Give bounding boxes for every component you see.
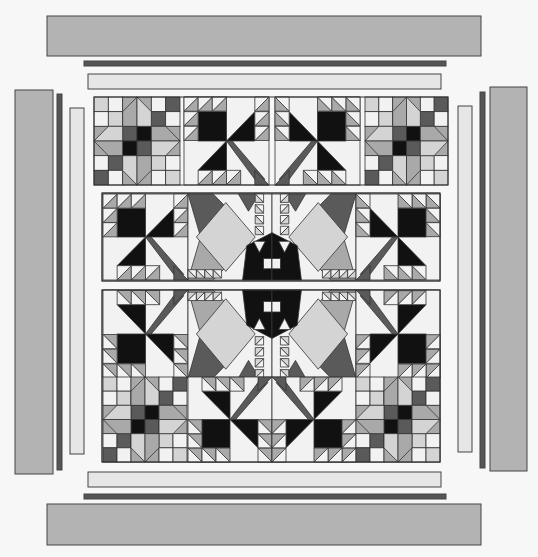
paw-square [398,208,426,237]
square-patch [370,377,384,391]
medallion-block [272,194,356,280]
square-patch [384,420,398,434]
top-dark-border [84,61,446,66]
bear-paw-block [184,97,269,185]
square-patch [434,97,448,112]
star-block [356,377,440,462]
square-patch [159,434,173,448]
square-patch [356,377,370,391]
square-patch [356,434,370,448]
square-patch [379,156,393,171]
square-patch [145,420,159,434]
right-outer-border [490,87,527,471]
square-patch [123,126,137,141]
square-patch [370,448,384,462]
medallion-block [188,290,272,378]
square-patch [420,170,434,185]
square-patch [137,141,151,156]
square-patch [173,434,187,448]
square-patch [108,97,122,112]
square-patch [393,126,407,141]
square-patch [420,156,434,171]
square-patch [426,391,440,405]
square-patch [151,112,165,127]
right-light-border [458,106,472,452]
square-patch [398,405,412,419]
medallion-block [188,194,272,280]
square-patch [108,156,122,171]
square-patch [412,448,426,462]
square-patch [379,170,393,185]
square-patch [166,112,180,127]
bear-paw-block [272,377,356,462]
star-block [94,97,180,185]
left-dark-border [57,94,62,470]
paw-square [398,334,426,363]
square-patch [420,112,434,127]
square-patch [173,448,187,462]
square-patch [173,377,187,391]
square-patch [131,405,145,419]
square-patch [379,112,393,127]
square-patch [94,156,108,171]
square-patch [384,405,398,419]
square-patch [407,141,421,156]
square-patch [426,434,440,448]
square-patch [145,405,159,419]
square-patch [365,170,379,185]
square-patch [272,301,280,312]
top-outer-border [47,16,481,56]
square-patch [272,259,280,269]
square-patch [398,420,412,434]
square-patch [370,434,384,448]
square-patch [103,434,117,448]
square-patch [103,377,117,391]
square-patch [103,448,117,462]
top-light-border [88,74,441,89]
square-patch [159,448,173,462]
square-patch [159,391,173,405]
bottom-dark-border [84,494,446,499]
square-patch [137,126,151,141]
square-patch [356,448,370,462]
square-patch [365,156,379,171]
square-patch [434,170,448,185]
square-patch [123,141,137,156]
square-patch [151,97,165,112]
square-patch [94,97,108,112]
bear-paw-block [356,290,440,378]
left-light-border [70,108,84,454]
square-patch [173,391,187,405]
star-block [103,377,187,462]
bear-paw-block [356,194,440,280]
paw-square [198,112,226,141]
medallion-block [272,290,356,378]
square-patch [94,112,108,127]
square-patch [434,156,448,171]
square-patch [370,391,384,405]
bear-paw-block [103,194,188,280]
bottom-upper-row [103,290,440,378]
paw-square [117,334,145,363]
square-patch [412,434,426,448]
square-patch [151,170,165,185]
right-dark-border [480,92,485,468]
square-patch [356,391,370,405]
bottom-light-border [88,472,441,487]
square-patch [117,434,131,448]
square-patch [117,448,131,462]
square-patch [264,259,272,269]
square-patch [434,112,448,127]
square-patch [166,97,180,112]
bottom-outer-border [47,504,481,545]
paw-square [314,420,342,448]
star-block [365,97,448,185]
bear-paw-block [275,97,360,185]
square-patch [365,97,379,112]
square-patch [426,377,440,391]
bear-paw-block [188,377,272,462]
paw-square [202,420,230,448]
square-patch [108,112,122,127]
bear-paw-block [103,290,188,378]
square-patch [379,97,393,112]
